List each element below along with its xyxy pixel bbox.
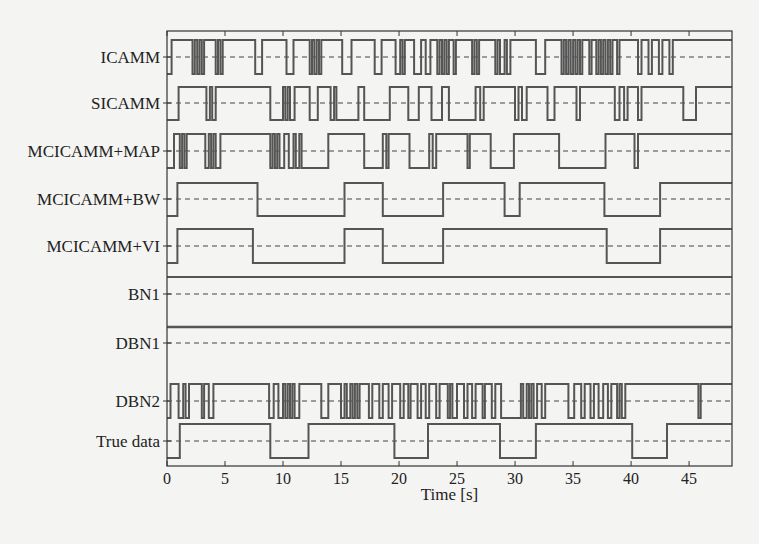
signal-row-dbn2: DBN2 xyxy=(116,384,732,418)
x-tick-label: 35 xyxy=(565,470,581,487)
signal-row-mcicamm-vi: MCICAMM+VI xyxy=(47,229,733,263)
x-tick-label: 30 xyxy=(507,470,523,487)
signal-row-sicamm: SICAMM xyxy=(91,87,732,120)
row-label: MCICAMM+VI xyxy=(47,237,161,256)
signal-row-dbn1: DBN1 xyxy=(116,327,732,353)
signal-row-true-data: True data xyxy=(96,424,732,458)
x-tick-label: 45 xyxy=(681,470,697,487)
x-tick-label: 5 xyxy=(221,470,229,487)
x-tick-label: 0 xyxy=(163,470,171,487)
row-label: MCICAMM+BW xyxy=(37,190,161,209)
x-tick-label: 40 xyxy=(623,470,639,487)
timing-chart: ICAMMSICAMMMCICAMM+MAPMCICAMM+BWMCICAMM+… xyxy=(0,0,759,544)
row-label: DBN1 xyxy=(116,334,160,353)
signal-rows: ICAMMSICAMMMCICAMM+MAPMCICAMM+BWMCICAMM+… xyxy=(28,40,732,458)
row-label: ICAMM xyxy=(100,48,160,67)
x-axis-label: Time [s] xyxy=(421,485,478,504)
x-tick-label: 20 xyxy=(391,470,407,487)
signal-row-bn1: BN1 xyxy=(128,277,732,304)
signal-row-mcicamm-map: MCICAMM+MAP xyxy=(28,134,732,168)
row-label: MCICAMM+MAP xyxy=(28,142,160,161)
row-label: DBN2 xyxy=(116,392,160,411)
signal-row-icamm: ICAMM xyxy=(100,40,732,74)
x-tick-label: 10 xyxy=(275,470,291,487)
row-label: BN1 xyxy=(128,285,160,304)
row-label: SICAMM xyxy=(91,94,160,113)
signal-row-mcicamm-bw: MCICAMM+BW xyxy=(37,183,732,216)
row-label: True data xyxy=(96,432,161,451)
x-tick-label: 15 xyxy=(333,470,349,487)
